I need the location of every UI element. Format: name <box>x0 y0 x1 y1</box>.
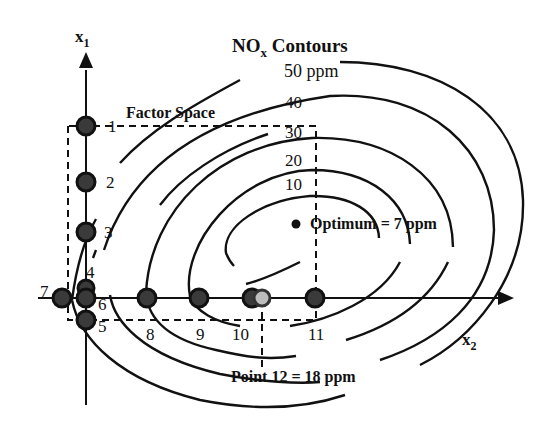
point-12 <box>254 290 270 306</box>
x1-axis-label: x1 <box>75 27 90 50</box>
contour-label-50: 50 ppm <box>284 61 339 81</box>
point-label-8: 8 <box>146 325 155 344</box>
point-11 <box>306 289 324 307</box>
point-5 <box>77 311 95 329</box>
contour-10 <box>226 196 379 284</box>
point-7 <box>53 289 71 307</box>
point-label-10: 10 <box>232 325 249 344</box>
x2-arrowhead <box>498 291 514 305</box>
optimum-marker <box>292 220 301 229</box>
point-1 <box>77 117 95 135</box>
point-label-11: 11 <box>308 325 324 344</box>
chart-title: NOx Contours <box>232 35 348 60</box>
point-label-3: 3 <box>104 223 113 242</box>
point-9 <box>190 289 208 307</box>
nox-contour-diagram: x1 x2 NOx Contours 50 ppm 40 30 20 10 Fa… <box>0 0 557 429</box>
point-label-4: 4 <box>86 263 95 282</box>
factor-space-label: Factor Space <box>126 104 215 122</box>
point-label-2: 2 <box>106 173 115 192</box>
point-label-5: 5 <box>98 317 107 336</box>
contour-label-30: 30 <box>285 123 302 142</box>
point-8 <box>138 289 156 307</box>
contour-40-upper <box>160 134 268 205</box>
point-6 <box>77 289 95 307</box>
contour-label-20: 20 <box>285 151 302 170</box>
x2-axis-label: x2 <box>462 330 477 353</box>
optimum-label: Optimum = 7 ppm <box>310 215 438 233</box>
point-label-1: 1 <box>108 117 117 136</box>
contour-label-40: 40 <box>285 93 302 112</box>
point12-label: Point 12 = 18 ppm <box>231 368 356 386</box>
point-label-9: 9 <box>196 325 205 344</box>
point-3 <box>77 223 95 241</box>
point-label-6: 6 <box>98 295 107 314</box>
point-2 <box>77 173 95 191</box>
contour-label-10: 10 <box>285 175 302 194</box>
x1-arrowhead <box>79 52 93 68</box>
point-label-7: 7 <box>40 282 49 301</box>
